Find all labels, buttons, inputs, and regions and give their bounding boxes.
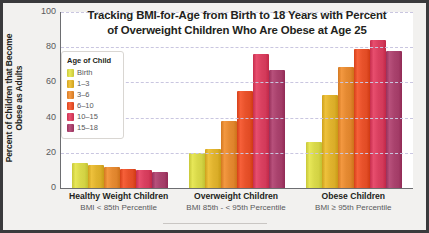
bar-fill — [189, 153, 205, 188]
bar-fill — [370, 40, 386, 188]
bar[interactable] — [338, 67, 354, 188]
legend-label: 1–3 — [77, 79, 90, 88]
bar-group — [178, 12, 295, 188]
legend-swatch — [67, 124, 74, 132]
chart-title-line-1: Tracking BMI-for-Age from Birth to 18 Ye… — [62, 8, 412, 23]
bar[interactable] — [136, 170, 152, 188]
y-tick-label: 40 — [24, 112, 56, 122]
x-category-sublabel: BMI 85th - < 95th Percentile — [177, 202, 294, 213]
legend-item[interactable]: 10–15 — [67, 111, 118, 122]
bar-fill — [269, 70, 285, 188]
legend-swatch — [67, 102, 74, 110]
legend: Age of Child Birth1–33–66–1010–1515–18 — [61, 51, 124, 139]
bar-group — [296, 12, 413, 188]
x-category-group: Obese ChildrenBMI ≥ 95th Percentile — [295, 191, 412, 213]
x-category-label: Healthy Weight Children — [60, 191, 177, 202]
frame-border-left — [0, 0, 3, 233]
y-tick-label: 100 — [24, 6, 56, 16]
bar-fill — [322, 95, 338, 188]
bar-fill — [306, 142, 322, 188]
bar[interactable] — [269, 70, 285, 188]
bar[interactable] — [322, 95, 338, 188]
bar[interactable] — [253, 54, 269, 188]
bar-fill — [72, 163, 88, 188]
y-tick-label: 0 — [24, 182, 56, 192]
x-category-sublabel: BMI < 85th Percentile — [60, 202, 177, 213]
x-category-label: Obese Children — [295, 191, 412, 202]
legend-item[interactable]: 15–18 — [67, 122, 118, 133]
x-category-sublabel: BMI ≥ 95th Percentile — [295, 202, 412, 213]
gridline — [61, 47, 413, 48]
bar-fill — [120, 169, 136, 188]
legend-label: Birth — [77, 68, 92, 77]
bar[interactable] — [120, 169, 136, 188]
y-tick-label: 80 — [24, 41, 56, 51]
bar-fill — [253, 54, 269, 188]
bar[interactable] — [72, 163, 88, 188]
y-axis-title: Percent of Children that Become Obese as… — [4, 23, 24, 173]
bar-fill — [205, 149, 221, 188]
bar[interactable] — [237, 91, 253, 188]
x-axis-category-labels: Healthy Weight ChildrenBMI < 85th Percen… — [60, 191, 412, 213]
bar[interactable] — [370, 40, 386, 188]
bar[interactable] — [386, 51, 402, 188]
bar[interactable] — [152, 172, 168, 188]
bar-fill — [237, 91, 253, 188]
legend-item[interactable]: 6–10 — [67, 100, 118, 111]
legend-label: 10–15 — [77, 112, 98, 121]
legend-swatch — [67, 80, 74, 88]
bar[interactable] — [306, 142, 322, 188]
bar-fill — [88, 165, 104, 188]
gridline — [61, 153, 413, 154]
bar-fill — [152, 172, 168, 188]
bar-fill — [136, 170, 152, 188]
bar-fill — [104, 167, 120, 188]
legend-swatch — [67, 69, 74, 77]
legend-swatch — [67, 113, 74, 121]
legend-items: Birth1–33–66–1010–1515–18 — [67, 67, 118, 133]
y-axis-tick-labels: 100806040200 — [22, 0, 56, 233]
frame-border-bottom — [0, 230, 429, 233]
legend-title: Age of Child — [67, 56, 118, 65]
legend-label: 3–6 — [77, 90, 90, 99]
legend-label: 15–18 — [77, 123, 98, 132]
legend-item[interactable]: Birth — [67, 67, 118, 78]
bottom-tab-decoration — [163, 223, 267, 230]
legend-item[interactable]: 3–6 — [67, 89, 118, 100]
bar[interactable] — [189, 153, 205, 188]
legend-swatch — [67, 91, 74, 99]
bar-fill — [386, 51, 402, 188]
bar[interactable] — [221, 121, 237, 188]
x-category-label: Overweight Children — [177, 191, 294, 202]
y-tick-label: 60 — [24, 76, 56, 86]
bar-fill — [221, 121, 237, 188]
chart-figure: Percent of Children that Become Obese as… — [0, 0, 429, 233]
chart-title-line-2: of Overweight Children Who Are Obese at … — [62, 23, 412, 38]
x-category-group: Healthy Weight ChildrenBMI < 85th Percen… — [60, 191, 177, 213]
y-tick-label: 20 — [24, 147, 56, 157]
legend-label: 6–10 — [77, 101, 94, 110]
bar[interactable] — [205, 149, 221, 188]
bar[interactable] — [104, 167, 120, 188]
chart-title: Tracking BMI-for-Age from Birth to 18 Ye… — [62, 8, 412, 37]
x-category-group: Overweight ChildrenBMI 85th - < 95th Per… — [177, 191, 294, 213]
bar-fill — [338, 67, 354, 188]
legend-item[interactable]: 1–3 — [67, 78, 118, 89]
frame-border-top — [0, 0, 429, 3]
bar[interactable] — [88, 165, 104, 188]
